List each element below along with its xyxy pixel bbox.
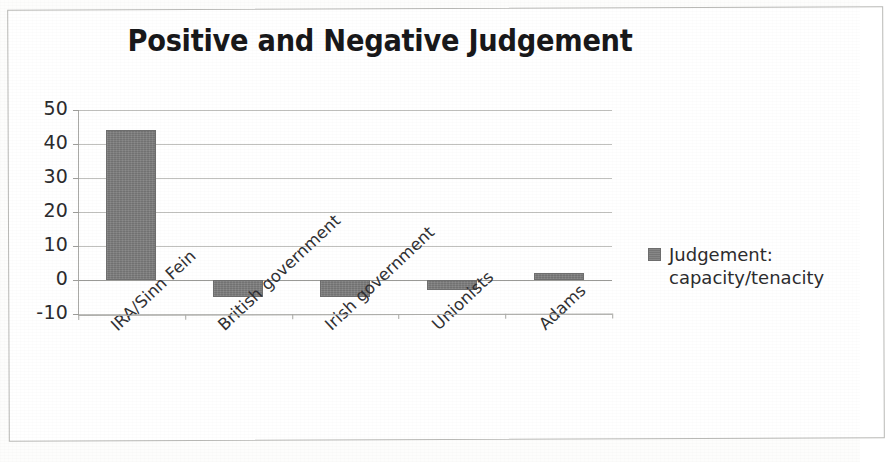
x-tick-label: Unionists bbox=[428, 267, 497, 333]
x-tick-label: Irish government bbox=[321, 223, 438, 334]
x-tick-mark bbox=[612, 314, 613, 319]
legend-square-icon bbox=[648, 248, 661, 261]
x-tick-label: IRA/Sinn Fein bbox=[108, 246, 200, 334]
chart-legend: Judgement: capacity/tenacity bbox=[648, 243, 858, 289]
legend-entry: Judgement: capacity/tenacity bbox=[648, 243, 858, 289]
legend-label: Judgement: capacity/tenacity bbox=[669, 243, 824, 289]
x-tick-label: Adams bbox=[535, 281, 589, 334]
legend-label-line2: capacity/tenacity bbox=[669, 267, 824, 288]
legend-label-line1: Judgement: bbox=[669, 244, 773, 265]
x-axis: IRA/Sinn FeinBritish governmentIrish gov… bbox=[0, 0, 861, 462]
